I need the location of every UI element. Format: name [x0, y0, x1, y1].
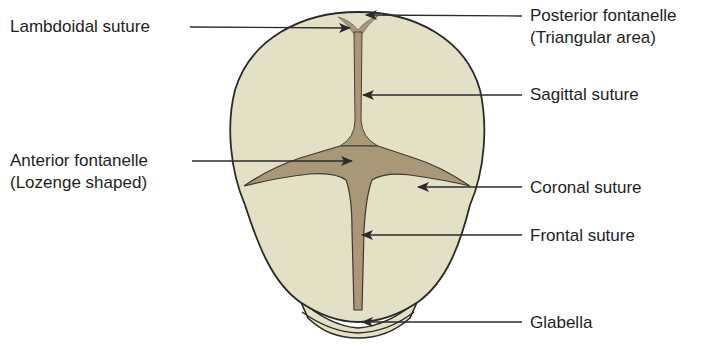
label-posterior-fontanelle: Posterior fontanelle — [530, 5, 676, 26]
label-frontal-suture: Frontal suture — [530, 225, 635, 246]
label-glabella: Glabella — [530, 312, 592, 333]
label-lambdoidal-suture: Lambdoidal suture — [10, 16, 150, 37]
label-sagittal-suture: Sagittal suture — [530, 84, 639, 105]
label-anterior-fontanelle: Anterior fontanelle — [10, 150, 148, 171]
label-anterior-fontanelle-note: (Lozenge shaped) — [10, 172, 147, 193]
label-posterior-fontanelle-note: (Triangular area) — [530, 27, 656, 48]
label-coronal-suture: Coronal suture — [530, 177, 642, 198]
